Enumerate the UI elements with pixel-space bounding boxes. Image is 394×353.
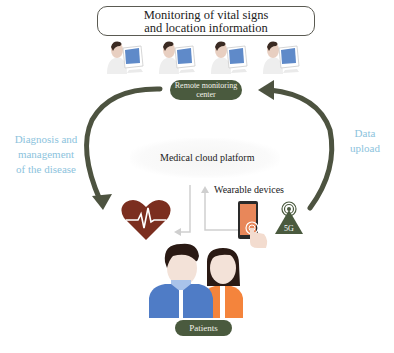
remote-center-line-1: Remote monitoring	[170, 81, 242, 90]
upload-line-2: upload	[340, 141, 390, 156]
left-flow-arrowhead-icon	[92, 194, 112, 210]
wearable-devices-label: Wearable devices	[214, 184, 284, 195]
right-flow-arrowhead-icon	[258, 80, 274, 100]
remote-monitoring-center-badge: Remote monitoring center	[170, 80, 242, 100]
connector-arrowhead-icon	[174, 228, 181, 236]
diagnosis-line-3: of the disease	[6, 162, 86, 177]
diagnosis-management-label: Diagnosis and management of the disease	[6, 132, 86, 177]
remote-center-line-2: center	[170, 90, 242, 99]
connector-arrowhead-icon	[201, 186, 209, 193]
patients-badge: Patients	[175, 320, 232, 336]
patients-illustration	[145, 242, 260, 320]
5g-label: 5G	[284, 224, 294, 233]
device-to-cloud-connector	[205, 192, 238, 230]
male-patient-icon	[149, 244, 213, 318]
data-upload-label: Data upload	[340, 126, 390, 156]
5g-tower-icon: 5G	[272, 200, 306, 236]
diagnosis-line-2: management	[6, 147, 86, 162]
cloud-to-heart-connector	[180, 185, 190, 232]
diagnosis-line-1: Diagnosis and	[6, 132, 86, 147]
medical-cloud-platform-label: Medical cloud platform	[160, 152, 254, 163]
upload-line-1: Data	[340, 126, 390, 141]
heart-pulse-icon	[120, 198, 172, 242]
